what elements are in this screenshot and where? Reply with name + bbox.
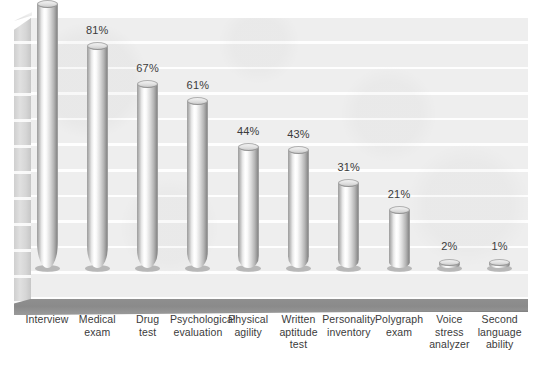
bar-top-cap-rim (187, 97, 208, 105)
category-label-line: Personality (321, 313, 377, 326)
bar-value-label: 43% (287, 128, 310, 140)
bar-body (288, 150, 309, 268)
bar-9: 1% (489, 262, 510, 268)
category-label-line: language (472, 326, 528, 339)
category-label-3: Psychologicalevaluation (170, 313, 226, 338)
category-label-line: evaluation (170, 326, 226, 339)
bar-value-label: 1% (492, 240, 508, 252)
category-label-line: inventory (321, 326, 377, 339)
category-label-2: Drugtest (120, 313, 176, 338)
bar-value-label: 67% (136, 62, 159, 74)
category-label-line: Drug (120, 313, 176, 326)
bar-chart: 96%81%67%61%44%43%31%21%2%1% InterviewMe… (0, 0, 555, 367)
category-axis-labels: InterviewMedicalexamDrugtestPsychologica… (0, 313, 555, 367)
bar-0: 96% (37, 4, 58, 268)
bar-series: 96%81%67%61%44%43%31%21%2%1% (0, 0, 555, 330)
category-label-line: Medical (69, 313, 125, 326)
bar-value-label: 2% (441, 240, 457, 252)
category-label-line: Polygraph (371, 313, 427, 326)
category-label-9: Secondlanguageability (472, 313, 528, 351)
category-label-line: Voice stress (421, 313, 477, 338)
bar-4: 44% (238, 147, 259, 268)
category-label-8: Voice stressanalyzer (421, 313, 477, 351)
category-label-6: Personalityinventory (321, 313, 377, 338)
category-label-4: Physicalagility (220, 313, 276, 338)
bar-5: 43% (288, 150, 309, 268)
category-label-line: test (120, 326, 176, 339)
bar-value-label: 31% (337, 161, 360, 173)
bar-body (37, 4, 58, 268)
category-label-line: Psychological (170, 313, 226, 326)
bar-top-cap-rim (338, 179, 359, 187)
bar-3: 61% (187, 101, 208, 268)
bar-top-cap-rim (87, 42, 108, 50)
category-label-line: analyzer (421, 338, 477, 351)
category-label-line: ability (472, 338, 528, 351)
bar-body (338, 183, 359, 268)
category-label-5: Writtenaptitudetest (271, 313, 327, 351)
bar-value-label: 81% (86, 24, 109, 36)
category-label-line: exam (371, 326, 427, 339)
bar-value-label: 21% (388, 188, 411, 200)
category-label-line: Interview (19, 313, 75, 326)
category-label-line: test (271, 338, 327, 351)
category-label-line: agility (220, 326, 276, 339)
category-label-7: Polygraphexam (371, 313, 427, 338)
bar-6: 31% (338, 183, 359, 268)
category-label-line: aptitude (271, 326, 327, 339)
category-label-0: Interview (19, 313, 75, 326)
category-label-line: Physical (220, 313, 276, 326)
bar-top-cap-rim (439, 259, 460, 266)
category-label-line: exam (69, 326, 125, 339)
bar-value-label: 44% (237, 125, 260, 137)
bar-7: 21% (389, 210, 410, 268)
bar-value-label: 61% (187, 79, 210, 91)
bar-body (187, 101, 208, 268)
bar-body (137, 84, 158, 268)
bar-8: 2% (439, 262, 460, 268)
bar-body (238, 147, 259, 268)
category-label-1: Medicalexam (69, 313, 125, 338)
plot-area: 96%81%67%61%44%43%31%21%2%1% (0, 0, 555, 330)
bar-1: 81% (87, 46, 108, 268)
bar-top-cap-rim (489, 259, 510, 266)
bar-top-cap-rim (288, 146, 309, 154)
category-label-line: Written (271, 313, 327, 326)
bar-body (87, 46, 108, 268)
bar-body (389, 210, 410, 268)
category-label-line: Second (472, 313, 528, 326)
bar-2: 67% (137, 84, 158, 268)
